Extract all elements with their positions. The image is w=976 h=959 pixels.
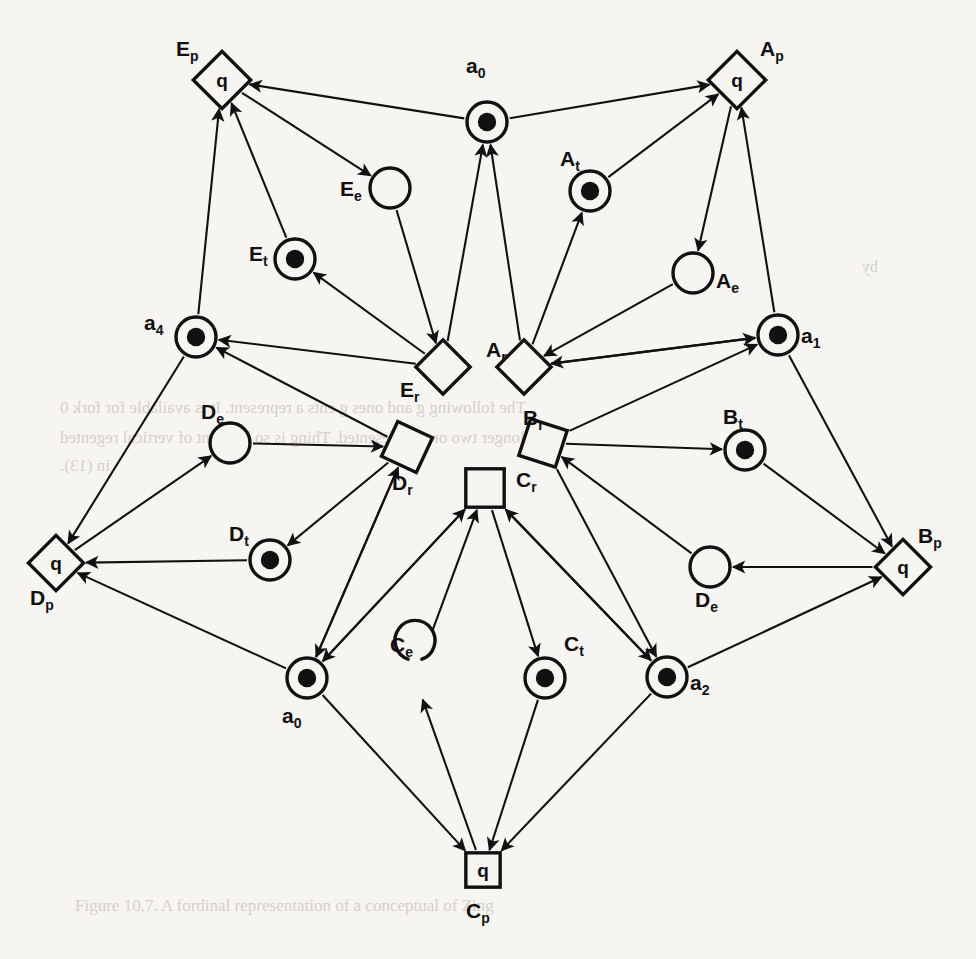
edge-Ct-to-Cp xyxy=(489,700,537,850)
node-Er[interactable] xyxy=(416,340,470,394)
token-dot xyxy=(298,669,316,687)
label-Bt: Bt xyxy=(723,405,743,432)
edge-Ae-to-Ar xyxy=(544,284,673,356)
label-Ar: Ar xyxy=(486,338,507,365)
label-Ct: Ct xyxy=(564,632,584,659)
edge-Ar-to-At xyxy=(532,213,581,345)
label-Er: Er xyxy=(400,378,420,405)
node-Ae[interactable] xyxy=(673,253,713,293)
edge-Dt-to-Dp xyxy=(86,560,247,562)
node-a0_top[interactable] xyxy=(467,102,507,142)
label-Dr: Dr xyxy=(392,471,413,498)
label-Ae: Ae xyxy=(716,269,739,296)
edge-Br-to-Bt xyxy=(566,444,722,449)
token-dot xyxy=(658,668,676,686)
node-Dt[interactable] xyxy=(250,540,290,580)
edge-a0_top-to-Ap xyxy=(510,85,710,119)
node-Ap[interactable]: q xyxy=(708,51,765,108)
place-q-label: q xyxy=(897,557,909,578)
node-Bp[interactable]: q xyxy=(875,539,930,594)
edge-a0_bot-to-Cp xyxy=(323,695,466,851)
label-Bp: Bp xyxy=(918,524,942,551)
label-Et: Et xyxy=(249,242,268,269)
edge-a4-to-Ep xyxy=(198,109,219,314)
label-Cr: Cr xyxy=(516,468,537,495)
token-dot xyxy=(536,669,554,687)
edge-Cp-to-Ce xyxy=(423,700,476,850)
node-Ee[interactable] xyxy=(370,168,410,208)
label-a0_bot: a0 xyxy=(282,704,302,731)
edge-Er-to-a4 xyxy=(219,340,416,364)
label-At: At xyxy=(560,147,580,174)
label-a1: a1 xyxy=(801,324,821,351)
label-Dt: Dt xyxy=(229,522,249,549)
edge-Er-to-Et xyxy=(314,273,425,354)
label-Ep: Ep xyxy=(176,37,199,64)
node-De_left[interactable] xyxy=(210,423,250,463)
node-a2[interactable] xyxy=(647,657,687,697)
edge-Ep-to-Ee xyxy=(242,93,371,176)
label-Ap: Ap xyxy=(760,37,784,64)
label-Dp: Dp xyxy=(30,586,54,613)
place-q-label: q xyxy=(216,70,228,91)
label-De_right: De xyxy=(695,588,718,615)
token-dot xyxy=(286,250,304,268)
label-a0_top: a0 xyxy=(466,54,486,81)
edge-Dr-to-a4 xyxy=(216,348,387,437)
label-Ee: Ee xyxy=(340,177,362,204)
edge-De_left-to-Dr xyxy=(253,444,383,447)
node-Cp[interactable]: q xyxy=(466,853,500,887)
label-a2: a2 xyxy=(690,671,710,698)
node-Cr[interactable] xyxy=(466,469,504,507)
edge-Dp-to-De_left xyxy=(75,456,211,550)
node-a0_bot[interactable] xyxy=(287,658,327,698)
edge-a2-to-Cp xyxy=(501,694,651,851)
node-Dp[interactable]: q xyxy=(28,535,83,590)
petri-net-svg: qqqqq Epa0ApEeAtEtAea4a1ErArDeDrBrBtCrDp… xyxy=(0,0,976,959)
node-Et[interactable] xyxy=(275,239,315,279)
token-dot xyxy=(478,113,496,131)
node-De_right[interactable] xyxy=(690,547,730,587)
edge-Ap-to-Ae xyxy=(698,106,731,250)
label-a4: a4 xyxy=(144,311,164,338)
node-Bt[interactable] xyxy=(725,430,765,470)
edge-Br-to-a2 xyxy=(557,469,656,656)
node-Ct[interactable] xyxy=(525,658,565,698)
edge-a2-to-Bp xyxy=(688,577,882,667)
node-a4[interactable] xyxy=(176,317,216,357)
label-Cp: Cp xyxy=(466,899,490,926)
place-q-label: q xyxy=(477,860,489,881)
edge-Dr-to-Dt xyxy=(288,462,389,545)
edge-a0_bot-to-Dp xyxy=(78,573,286,669)
edge-De_right-to-Br xyxy=(562,457,692,553)
label-Br: Br xyxy=(523,406,544,433)
edge-a0_top-to-Ep xyxy=(250,84,465,118)
edge-Et-to-Ep xyxy=(231,103,286,238)
edge-Ar-to-a0_top xyxy=(490,145,520,341)
node-At[interactable] xyxy=(570,171,610,211)
edge-At-to-Ap xyxy=(608,94,718,177)
place-q-label: q xyxy=(50,553,62,574)
token-dot xyxy=(581,182,599,200)
edge-a0_bot-to-Dr xyxy=(316,467,398,657)
token-dot xyxy=(187,328,205,346)
token-dot xyxy=(736,441,754,459)
edge-a1-to-Bp xyxy=(789,355,892,546)
node-a1[interactable] xyxy=(758,315,798,355)
figure-canvas: The following g and ones g ents a repres… xyxy=(0,0,976,959)
label-De_left: De xyxy=(201,400,224,427)
edge-Cr-to-Ct xyxy=(492,510,538,656)
edge-Er-to-a0_top xyxy=(448,145,483,341)
node-Dr[interactable] xyxy=(381,421,432,472)
edge-a1-to-Ap xyxy=(741,108,774,313)
edge-Ee-to-Er xyxy=(397,210,436,343)
node-Ep[interactable]: q xyxy=(193,51,250,108)
node-layer: qqqqq xyxy=(28,51,930,887)
place-q-label: q xyxy=(731,70,743,91)
edge-Bt-to-Bp xyxy=(763,464,884,554)
token-dot xyxy=(261,551,279,569)
node-Ar[interactable] xyxy=(497,340,551,394)
token-dot xyxy=(769,326,787,344)
